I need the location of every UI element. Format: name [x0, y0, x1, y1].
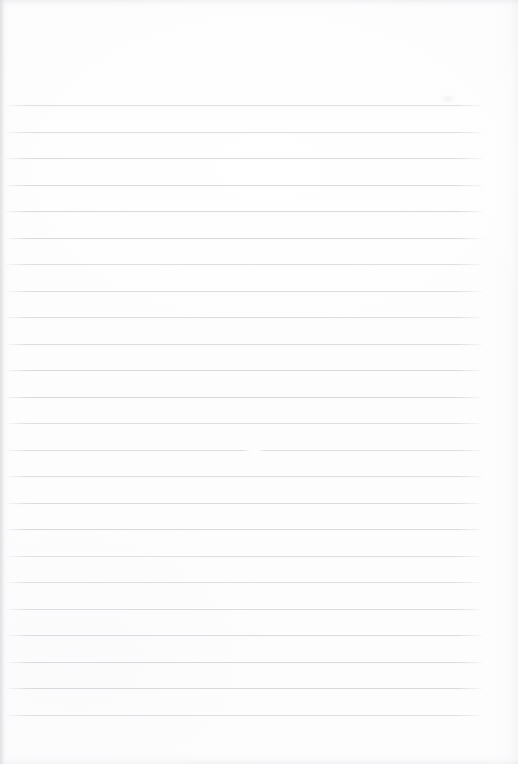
- ruled-line: [3, 688, 482, 689]
- ruled-line: [3, 476, 482, 477]
- ruled-line: [3, 185, 482, 186]
- ruled-line: [3, 662, 482, 663]
- ruled-line: [3, 609, 482, 610]
- ruled-line: [3, 291, 482, 292]
- ruled-line: [3, 423, 482, 424]
- ruled-line: [3, 370, 482, 371]
- ruled-lines-layer: [0, 0, 518, 764]
- scanned-page-canvas: [0, 0, 518, 764]
- ruled-line: [3, 635, 482, 636]
- ruled-line: [3, 264, 482, 265]
- ruled-line: [3, 211, 482, 212]
- ruled-line: [3, 556, 482, 557]
- ruled-line: [3, 529, 482, 530]
- ruled-line: [3, 158, 482, 159]
- ruled-line: [3, 317, 482, 318]
- ruled-line: [3, 238, 482, 239]
- ruled-line: [3, 132, 482, 133]
- ruled-line: [3, 503, 482, 504]
- ruled-line-break-artifact: [243, 449, 265, 452]
- ruled-line: [3, 344, 482, 345]
- ruled-line: [3, 397, 482, 398]
- ruled-line: [3, 715, 482, 716]
- ruled-line: [3, 105, 482, 106]
- ruled-line: [3, 582, 482, 583]
